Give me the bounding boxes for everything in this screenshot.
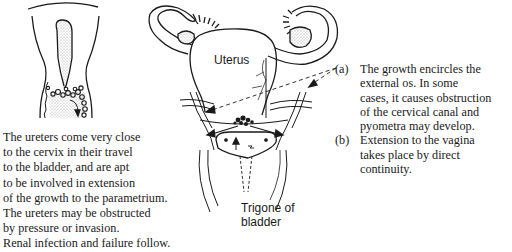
- trigone-label: Trigone of bladder: [241, 201, 295, 229]
- cervix-section-drawing: [28, 3, 99, 118]
- trigone-label-line: Trigone of: [241, 201, 295, 215]
- notes-list: (a) The growth encircles the external os…: [335, 62, 512, 176]
- note-line: continuity.: [360, 162, 512, 176]
- uterus-drawing: [149, 6, 337, 212]
- note-marker: (a): [335, 62, 360, 133]
- caption-line: of the growth to the parametrium.: [3, 191, 170, 206]
- caption-line: Renal infection and failure follow.: [3, 236, 170, 251]
- note-marker: (b): [335, 133, 360, 176]
- caption-line: to the cervix in their travel: [3, 145, 170, 160]
- caption-line: by pressure or invasion.: [3, 221, 170, 236]
- caption-line: The ureters may be obstructed: [3, 206, 170, 221]
- note-text: The growth encircles the external os. In…: [360, 62, 512, 133]
- caption-line: The ureters come very close: [3, 130, 170, 145]
- note-b: (b) Extension to the vagina takes place …: [335, 133, 512, 176]
- caption-line: to the bladder, and are apt: [3, 160, 170, 175]
- note-line: takes place by direct: [360, 148, 512, 162]
- trigone-label-line: bladder: [241, 215, 295, 229]
- caption-line: to be involved in extension: [3, 176, 170, 191]
- note-line: of the cervical canal and: [360, 105, 512, 119]
- anatomical-figure: The ureters come very close to the cervi…: [0, 0, 512, 252]
- note-text: Extension to the vagina takes place by d…: [360, 133, 512, 176]
- note-line: The growth encircles the: [360, 62, 512, 76]
- note-line: pyometra may develop.: [360, 119, 512, 133]
- note-a: (a) The growth encircles the external os…: [335, 62, 512, 133]
- note-line: external os. In some: [360, 76, 512, 90]
- note-line: Extension to the vagina: [360, 133, 512, 147]
- uterus-label: Uterus: [214, 53, 249, 67]
- note-line: cases, it causes obstruction: [360, 91, 512, 105]
- ureter-caption: The ureters come very close to the cervi…: [3, 130, 170, 252]
